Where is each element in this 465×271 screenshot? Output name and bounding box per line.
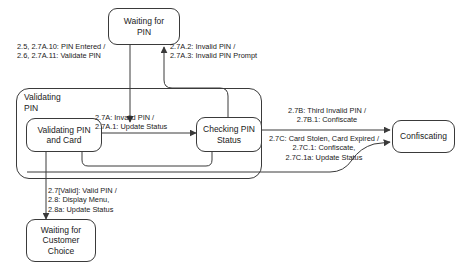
label-invalid-pin-prompt: 2.7A.2: Invalid PIN / 2.7A.3: Invalid PI… <box>170 42 290 61</box>
label-card-stolen-expired: 2.7C: Card Stolen, Card Expired / 2.7C.1… <box>258 134 390 162</box>
state-diagram-canvas: Validating PIN Waiting for PIN Validatin… <box>0 0 465 271</box>
label-invalid-pin-update-status: 2.7A: Invalid PIN / 2.7A.1: Update Statu… <box>95 113 195 132</box>
state-confiscating[interactable]: Confiscating <box>392 120 455 153</box>
label-pin-entered: 2.5, 2.7A.10: PIN Entered / 2.6, 2.7A.11… <box>17 42 132 61</box>
state-checking-pin-status[interactable]: Checking PIN Status <box>196 117 262 152</box>
state-waiting-for-pin[interactable]: Waiting for PIN <box>108 8 180 45</box>
composite-state-label: Validating PIN <box>24 92 94 113</box>
state-validating-pin-and-card[interactable]: Validating PIN and Card <box>26 118 102 152</box>
label-valid-pin: 2.7[Valid]: Valid PIN / 2.8: Display Men… <box>48 186 164 214</box>
state-waiting-for-customer-choice[interactable]: Waiting for Customer Choice <box>26 219 96 262</box>
label-third-invalid-pin: 2.7B: Third Invalid PIN / 2.7B.1: Confis… <box>268 106 386 125</box>
